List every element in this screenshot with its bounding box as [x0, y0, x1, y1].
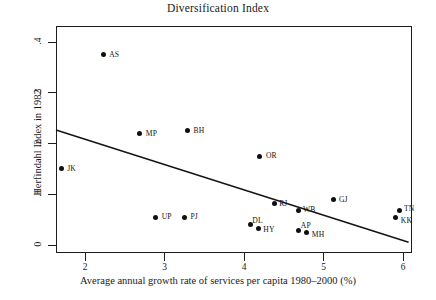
x-tick-label: 5 — [315, 262, 333, 272]
data-point-label-mp: MP — [146, 129, 157, 138]
data-point-label-jk: JK — [67, 164, 76, 173]
x-tick-label: 2 — [76, 262, 94, 272]
data-point-label-ap: AP — [301, 221, 311, 230]
data-point-label-or: OR — [266, 151, 277, 160]
data-point-up[interactable] — [153, 215, 158, 220]
data-point-label-rj: RJ — [279, 199, 287, 208]
y-tick-label: .1 — [33, 185, 43, 201]
data-point-kk[interactable] — [393, 215, 398, 220]
chart-title: Diversification Index — [0, 2, 436, 14]
y-tick-label: .2 — [33, 135, 43, 151]
data-point-hy[interactable] — [256, 226, 261, 231]
data-point-label-gj: GJ — [339, 195, 348, 204]
y-tick-mark — [48, 42, 56, 43]
x-tick-label: 6 — [394, 262, 412, 272]
y-tick-mark — [48, 194, 56, 195]
data-point-label-kk: KK — [401, 216, 412, 225]
data-point-as[interactable] — [101, 52, 106, 57]
y-tick-mark — [48, 245, 56, 246]
x-tick-mark — [403, 253, 404, 261]
y-tick-label: 0 — [33, 236, 43, 252]
data-point-gj[interactable] — [331, 197, 336, 202]
x-tick-mark — [164, 253, 165, 261]
x-tick-mark — [244, 253, 245, 261]
data-point-label-wb: WB — [303, 205, 315, 214]
x-tick-label: 4 — [235, 262, 253, 272]
scatter-chart-figure: Diversification Index Herfindahl Index i… — [0, 0, 436, 300]
data-point-label-up: UP — [162, 212, 172, 221]
plot-area — [56, 26, 412, 253]
x-tick-label: 3 — [156, 262, 174, 272]
x-axis-title: Average annual growth rate of services p… — [0, 275, 436, 286]
y-tick-label: .4 — [33, 33, 43, 49]
data-point-label-bh: BH — [194, 126, 205, 135]
data-point-label-as: AS — [109, 50, 119, 59]
x-tick-mark — [323, 253, 324, 261]
data-point-label-hy: HY — [263, 225, 274, 234]
data-point-label-pj: PJ — [190, 212, 197, 221]
data-point-pj[interactable] — [182, 215, 187, 220]
y-tick-mark — [48, 92, 56, 93]
data-point-label-mh: MH — [312, 230, 324, 239]
data-point-label-dl: DL — [252, 216, 262, 225]
y-tick-label: .3 — [33, 84, 43, 100]
y-tick-mark — [48, 143, 56, 144]
data-point-label-tn: TN — [404, 204, 414, 213]
x-tick-mark — [85, 253, 86, 261]
